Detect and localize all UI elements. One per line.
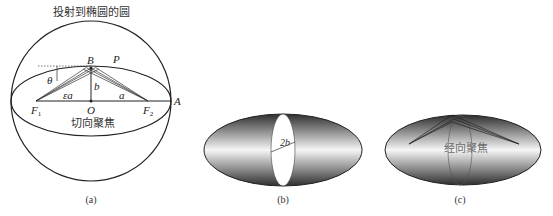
- label-F1: F1: [30, 104, 42, 118]
- ellipse-focusing-figure: 投射到椭圆的圆 B P θ b εa a F1 O F2 A 切向聚焦 (a): [0, 0, 553, 216]
- caption-a: (a): [85, 194, 96, 206]
- point-B-dot: [90, 67, 93, 70]
- label-eps-a: εa: [63, 89, 73, 101]
- label-a: a: [119, 89, 125, 101]
- label-F2: F2: [142, 104, 154, 118]
- panel-a-title: 投射到椭圆的圆: [53, 5, 130, 19]
- label-O: O: [87, 104, 95, 116]
- caption-b: (b): [277, 194, 289, 206]
- meridional-focus-label: 经向聚焦: [444, 141, 488, 155]
- tangential-focus-label: 切向聚焦: [71, 116, 115, 130]
- point-O-dot: [90, 100, 93, 103]
- label-B: B: [87, 54, 94, 66]
- cross-section: [271, 114, 295, 186]
- label-2b: 2b: [280, 137, 290, 148]
- label-P: P: [112, 53, 120, 65]
- label-A: A: [173, 95, 181, 107]
- panel-c: 经向聚焦 (c): [385, 115, 541, 206]
- panel-a: 投射到椭圆的圆 B P θ b εa a F1 O F2 A 切向聚焦 (a): [11, 5, 181, 206]
- focus-rays: [36, 67, 148, 101]
- panel-b: 2b (b): [204, 114, 362, 206]
- caption-c: (c): [454, 194, 465, 206]
- label-b: b: [94, 80, 100, 92]
- label-theta: θ: [47, 74, 53, 86]
